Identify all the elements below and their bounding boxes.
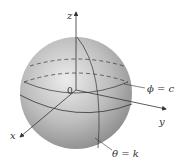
sphere-diagram: z 0 ϕ = c y x θ = k [0, 0, 180, 161]
y-axis-label: y [158, 116, 165, 127]
origin-label: 0 [67, 86, 73, 96]
x-axis-label: x [10, 130, 16, 141]
phi-label: ϕ = c [147, 83, 175, 94]
theta-label: θ = k [112, 148, 139, 159]
z-axis-label: z [66, 10, 73, 21]
